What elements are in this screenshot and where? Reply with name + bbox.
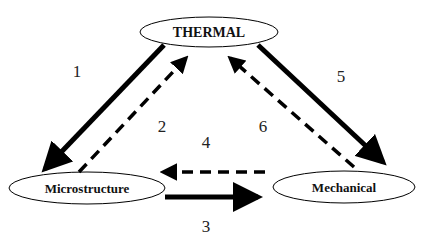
edge-label-3: 3 — [202, 217, 211, 236]
edge-label-5: 5 — [337, 67, 346, 86]
edge-label-4: 4 — [202, 133, 211, 152]
node-mechanical: Mechanical — [273, 171, 415, 203]
edge-label-6: 6 — [259, 117, 268, 136]
node-microstructure: Microstructure — [9, 172, 165, 204]
edge-5-thermal-to-mechanical — [258, 45, 383, 162]
node-thermal: THERMAL — [140, 17, 278, 47]
node-thermal-label: THERMAL — [173, 25, 245, 40]
edge-label-1: 1 — [73, 62, 82, 81]
edge-label-2: 2 — [158, 117, 167, 136]
node-microstructure-label: Microstructure — [45, 181, 130, 196]
edge-1-thermal-to-microstructure — [45, 45, 164, 169]
node-mechanical-label: Mechanical — [312, 180, 377, 195]
coupling-diagram: THERMAL Microstructure Mechanical 1 2 3 … — [0, 0, 426, 247]
